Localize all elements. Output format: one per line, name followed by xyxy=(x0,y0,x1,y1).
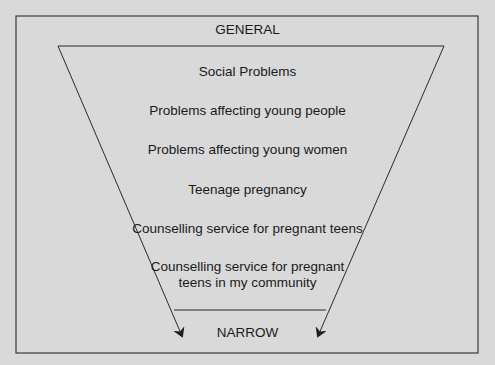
funnel-level-2: Problems affecting young people xyxy=(0,103,495,119)
funnel-level-4: Teenage pregnancy xyxy=(0,182,495,198)
narrow-label: NARROW xyxy=(0,325,495,341)
general-label: GENERAL xyxy=(0,22,495,38)
funnel-diagram: GENERAL Social Problems Problems affecti… xyxy=(0,0,495,365)
funnel-level-1: Social Problems xyxy=(0,64,495,80)
funnel-level-5: Counselling service for pregnant teens xyxy=(0,221,495,237)
funnel-level-6: Counselling service for pregnant teens i… xyxy=(147,259,348,291)
funnel-level-3: Problems affecting young women xyxy=(0,142,495,158)
